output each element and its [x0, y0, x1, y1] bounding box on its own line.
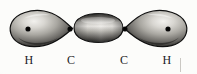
orbital-lobe-right	[125, 10, 187, 46]
label-carbon-right: C	[116, 52, 132, 68]
orbital-stage	[0, 0, 197, 52]
label-carbon-left: C	[63, 52, 79, 68]
nucleus-dot-hydrogen-left	[25, 26, 30, 31]
label-hydrogen-left: H	[21, 52, 37, 68]
nucleus-dot-carbon-left	[67, 26, 72, 31]
nucleus-dot-carbon-right	[122, 26, 127, 31]
atom-label-row: H C C H	[0, 52, 197, 74]
orbital-lobe-center	[74, 14, 123, 43]
nucleus-dot-hydrogen-right	[165, 26, 170, 31]
scan-artifact-line	[180, 58, 181, 72]
label-hydrogen-right: H	[159, 52, 175, 68]
orbital-lobe-left	[10, 10, 72, 46]
orbital-diagram-figure: H C C H	[0, 0, 197, 74]
